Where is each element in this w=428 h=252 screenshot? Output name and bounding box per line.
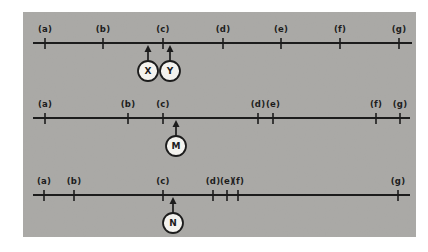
panel-grain-texture: [23, 12, 416, 237]
tick-label-top-0: (a): [38, 24, 52, 34]
tick-label-bottom-5: (f): [232, 176, 244, 186]
figure-canvas: (a)(b)(c)(d)(e)(f)(g)XY(a)(b)(c)(d)(e)(f…: [0, 0, 428, 252]
pointer-letter-N: N: [169, 218, 177, 228]
tick-label-top-1: (b): [96, 24, 110, 34]
tick-label-bottom-0: (a): [37, 176, 51, 186]
tick-label-middle-3: (d): [251, 99, 265, 109]
panel-noise-rect: [23, 12, 416, 237]
tick-label-middle-1: (b): [121, 99, 135, 109]
tick-label-top-5: (f): [334, 24, 346, 34]
tick-label-middle-2: (c): [156, 99, 169, 109]
diagram-svg: (a)(b)(c)(d)(e)(f)(g)XY(a)(b)(c)(d)(e)(f…: [0, 0, 428, 252]
pointer-letter-X: X: [145, 66, 152, 76]
tick-label-middle-4: (e): [266, 99, 280, 109]
tick-label-top-2: (c): [156, 24, 169, 34]
tick-label-bottom-2: (c): [156, 176, 169, 186]
tick-label-middle-5: (f): [370, 99, 382, 109]
tick-label-bottom-1: (b): [67, 176, 81, 186]
tick-label-middle-6: (g): [393, 99, 407, 109]
tick-label-middle-0: (a): [38, 99, 52, 109]
tick-label-top-4: (e): [274, 24, 288, 34]
tick-label-top-3: (d): [216, 24, 230, 34]
tick-label-bottom-6: (g): [391, 176, 405, 186]
pointer-letter-M: M: [172, 141, 181, 151]
tick-label-top-6: (g): [392, 24, 406, 34]
tick-label-bottom-3: (d): [206, 176, 220, 186]
pointer-letter-Y: Y: [166, 66, 174, 76]
